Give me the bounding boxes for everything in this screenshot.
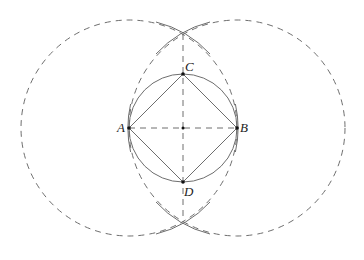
label-d: D xyxy=(183,184,194,199)
point-center xyxy=(182,127,185,130)
construction-diagram: A B C D xyxy=(0,0,364,260)
point-a xyxy=(127,126,131,130)
label-a: A xyxy=(116,120,125,135)
solid-arc-bottom-right xyxy=(156,202,210,234)
label-b: B xyxy=(240,120,248,135)
point-b xyxy=(235,126,239,130)
label-c: C xyxy=(185,59,194,74)
solid-arc-bottom-left xyxy=(156,202,210,234)
